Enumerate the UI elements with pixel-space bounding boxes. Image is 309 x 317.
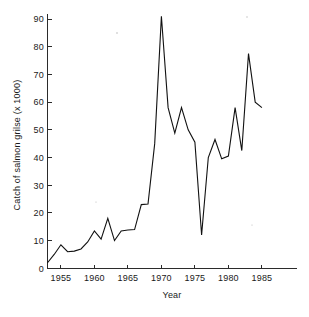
chart-figure: 90 80 70 60 50 40 30 20 10 0 Catch of sa…: [0, 0, 309, 317]
y-tick-label: 60: [34, 97, 44, 107]
x-tick-label: 1965: [117, 273, 138, 283]
y-tick-label: 30: [34, 181, 44, 191]
y-tick-label: 0: [39, 264, 44, 274]
x-tick-label: 1975: [184, 273, 205, 283]
x-axis-title: Year: [163, 290, 182, 300]
y-axis-title: Catch of salmon grilse (x 1000): [12, 80, 22, 211]
y-tick-label: 10: [34, 236, 44, 246]
line-chart: 90 80 70 60 50 40 30 20 10 0 Catch of sa…: [0, 0, 309, 317]
y-tick-label: 90: [34, 14, 44, 24]
x-tick-label: 1980: [218, 273, 239, 283]
y-tick-label: 20: [34, 208, 44, 218]
x-tick-label: 1955: [50, 273, 71, 283]
y-tick-label: 70: [34, 70, 44, 80]
chart-background: [0, 0, 309, 317]
x-tick-label: 1960: [84, 273, 105, 283]
x-tick-label: 1985: [251, 273, 272, 283]
x-tick-label: 1970: [151, 273, 172, 283]
y-tick-label: 40: [34, 153, 44, 163]
y-tick-label: 50: [34, 125, 44, 135]
y-tick-label: 80: [34, 42, 44, 52]
